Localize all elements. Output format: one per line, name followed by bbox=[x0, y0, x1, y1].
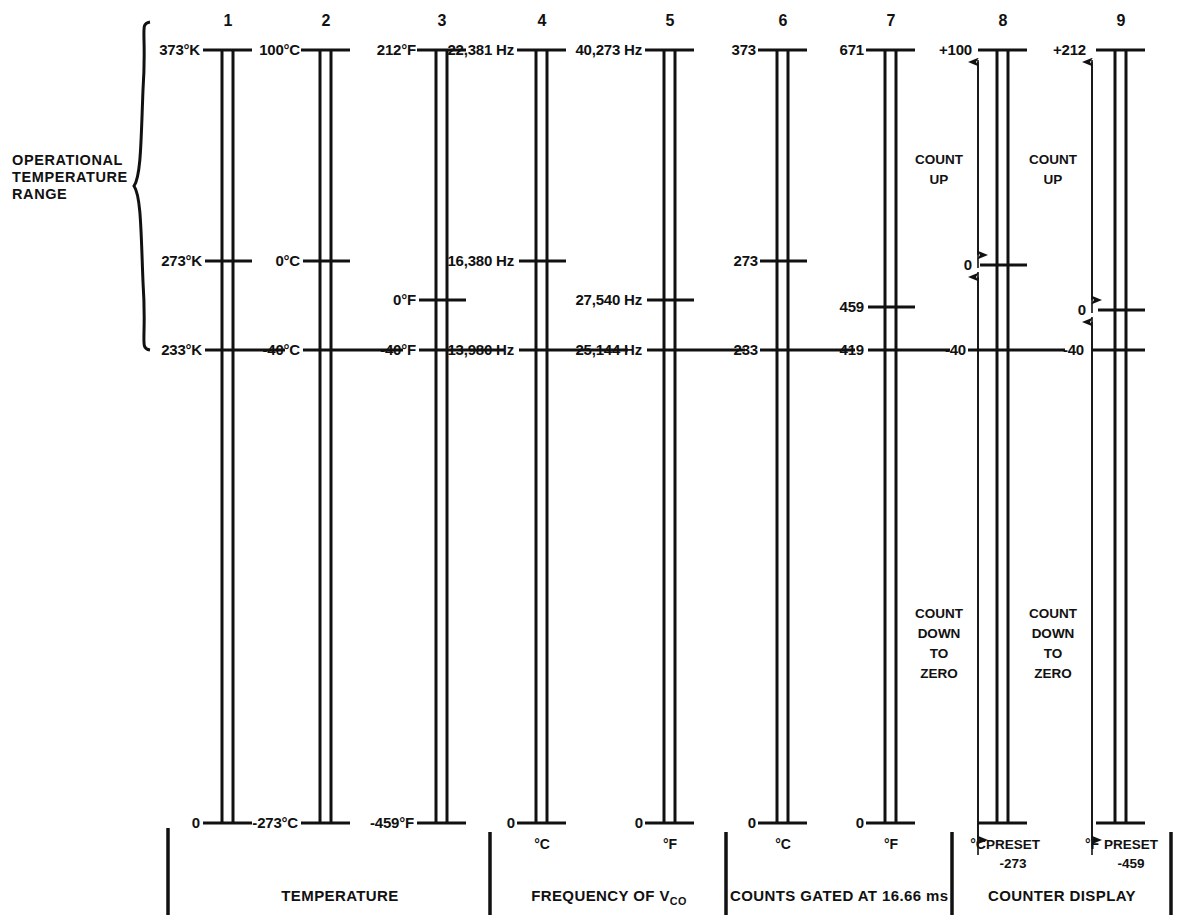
count-up-label-c8: COUNT UP bbox=[901, 150, 977, 190]
unit-label-c6: °C bbox=[758, 836, 808, 852]
count-up-line-2-c9: UP bbox=[1015, 170, 1091, 190]
tick-label-c3-0f: 0°F bbox=[316, 291, 416, 308]
group-caption-counts: COUNTS GATED AT 16.66 ms bbox=[730, 887, 948, 904]
column-number-9: 9 bbox=[1096, 12, 1146, 30]
tick-label-c1-373k: 373°K bbox=[55, 41, 200, 58]
group-caption-counter-display: COUNTER DISPLAY bbox=[956, 887, 1168, 904]
tick-label-c4-0: 0 bbox=[455, 814, 515, 831]
column-number-6: 6 bbox=[758, 12, 808, 30]
count-down-line-4-c9: ZERO bbox=[1015, 664, 1091, 684]
count-down-line-1-c9: COUNT bbox=[1015, 604, 1091, 624]
count-down-line-2-c8: DOWN bbox=[901, 624, 977, 644]
tick-label-c3-minus459f: -459°F bbox=[310, 814, 414, 831]
tick-label-c9-minus40: -40 bbox=[1026, 341, 1084, 358]
group-caption-frequency-text: FREQUENCY OF V bbox=[531, 887, 670, 904]
count-down-label-c9: COUNT DOWN TO ZERO bbox=[1015, 604, 1091, 684]
bar-column-9 bbox=[1096, 50, 1145, 823]
preset-value-c9: -459 bbox=[1090, 854, 1172, 873]
tick-label-c5-27540hz: 27,540 Hz bbox=[504, 291, 642, 308]
bar-column-5 bbox=[645, 50, 694, 823]
count-up-line-2-c8: UP bbox=[901, 170, 977, 190]
group-caption-frequency: FREQUENCY OF VCO bbox=[496, 887, 722, 907]
count-down-line-3-c9: TO bbox=[1015, 644, 1091, 664]
tick-label-c9-0: 0 bbox=[1034, 301, 1086, 318]
bar-column-2 bbox=[301, 50, 350, 823]
count-down-label-c8: COUNT DOWN TO ZERO bbox=[901, 604, 977, 684]
tick-label-c6-233: 233 bbox=[688, 341, 758, 358]
tick-label-c4-13980hz: 13,980 Hz bbox=[376, 341, 514, 358]
scales-svg bbox=[0, 0, 1184, 924]
tick-label-c7-671: 671 bbox=[796, 41, 864, 58]
operational-range-line-2: TEMPERATURE bbox=[12, 169, 130, 186]
tick-label-c6-0: 0 bbox=[696, 814, 756, 831]
tick-label-c8-minus40: -40 bbox=[908, 341, 966, 358]
column-number-3: 3 bbox=[417, 12, 467, 30]
operational-range-brace bbox=[134, 22, 150, 350]
preset-title-c9: PRESET bbox=[1090, 835, 1172, 854]
tick-label-c6-273: 273 bbox=[688, 252, 758, 269]
tick-label-c5-40273hz: 40,273 Hz bbox=[504, 41, 642, 58]
group-caption-temperature: TEMPERATURE bbox=[195, 887, 485, 904]
bar-column-1 bbox=[203, 50, 252, 823]
diagram-canvas: OPERATIONAL TEMPERATURE RANGE 1 2 3 4 5 … bbox=[0, 0, 1184, 924]
tick-label-c7-419: 419 bbox=[796, 341, 864, 358]
tick-label-c4-22381hz: 22,381 Hz bbox=[376, 41, 514, 58]
operational-range-line-1: OPERATIONAL bbox=[12, 152, 130, 169]
preset-label-c9: PRESET -459 bbox=[1090, 835, 1172, 873]
count-down-line-3-c8: TO bbox=[901, 644, 977, 664]
count-up-line-1-c8: COUNT bbox=[901, 150, 977, 170]
tick-label-c1-273k: 273°K bbox=[55, 252, 202, 269]
preset-title-c8: PRESET bbox=[972, 835, 1054, 854]
bar-column-4 bbox=[517, 50, 566, 823]
tick-label-c2-minus40c: -40°C bbox=[200, 341, 300, 358]
count-up-label-c9: COUNT UP bbox=[1015, 150, 1091, 190]
count-down-line-4-c8: ZERO bbox=[901, 664, 977, 684]
column-number-4: 4 bbox=[517, 12, 567, 30]
unit-label-c5: °F bbox=[645, 836, 695, 852]
tick-label-c8-plus100: +100 bbox=[896, 41, 972, 58]
column-number-1: 1 bbox=[203, 12, 253, 30]
tick-label-c5-25144hz: 25,144 Hz bbox=[504, 341, 642, 358]
column-number-7: 7 bbox=[866, 12, 916, 30]
tick-label-c6-373: 373 bbox=[688, 41, 756, 58]
tick-label-c2-100c: 100°C bbox=[200, 41, 300, 58]
tick-label-c4-16380hz: 16,380 Hz bbox=[376, 252, 514, 269]
tick-label-c2-0c: 0°C bbox=[200, 252, 300, 269]
preset-label-c8: PRESET -273 bbox=[972, 835, 1054, 873]
bar-column-6 bbox=[758, 50, 807, 823]
operational-range-line-3: RANGE bbox=[12, 186, 130, 203]
column-number-2: 2 bbox=[301, 12, 351, 30]
unit-label-c4: °C bbox=[517, 836, 567, 852]
unit-label-c7: °F bbox=[866, 836, 916, 852]
column-number-8: 8 bbox=[978, 12, 1028, 30]
preset-value-c8: -273 bbox=[972, 854, 1054, 873]
column-number-5: 5 bbox=[645, 12, 695, 30]
operational-range-label: OPERATIONAL TEMPERATURE RANGE bbox=[12, 152, 130, 203]
bar-column-3 bbox=[417, 50, 466, 823]
tick-label-c1-0: 0 bbox=[140, 814, 200, 831]
count-up-line-1-c9: COUNT bbox=[1015, 150, 1091, 170]
count-down-line-1-c8: COUNT bbox=[901, 604, 977, 624]
count-down-line-2-c9: DOWN bbox=[1015, 624, 1091, 644]
column-bars bbox=[203, 50, 1145, 823]
tick-label-c7-0: 0 bbox=[804, 814, 864, 831]
tick-label-c9-plus212: +212 bbox=[1010, 41, 1086, 58]
tick-label-c5-0: 0 bbox=[583, 814, 643, 831]
group-caption-frequency-subscript: CO bbox=[670, 895, 687, 907]
tick-label-c1-233k: 233°K bbox=[55, 341, 202, 358]
tick-label-c8-0: 0 bbox=[920, 256, 972, 273]
tick-label-c2-minus273c: -273°C bbox=[198, 814, 298, 831]
tick-label-c7-459: 459 bbox=[796, 298, 864, 315]
